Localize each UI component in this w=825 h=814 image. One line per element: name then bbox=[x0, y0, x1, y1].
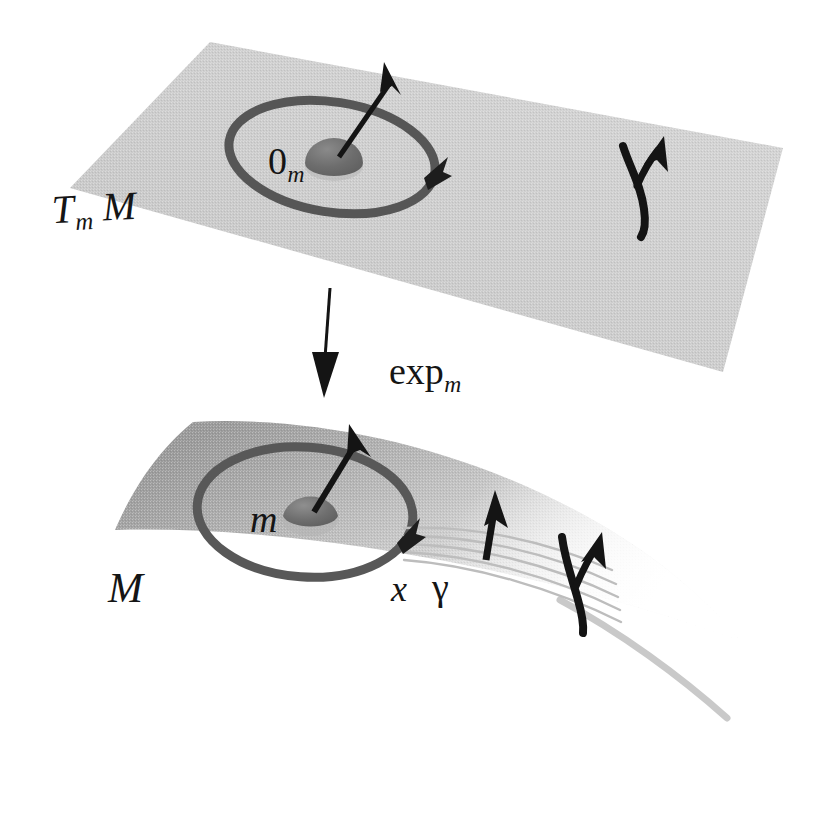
origin-label-zero: 0 bbox=[268, 140, 287, 182]
manifold-group bbox=[115, 421, 740, 718]
tangent-plane-texture bbox=[70, 42, 783, 372]
manifold-label: M bbox=[108, 567, 143, 609]
origin-label-subscript: m bbox=[287, 161, 304, 187]
tangent-space-label-T: T bbox=[51, 186, 76, 232]
exp-label-text: exp bbox=[389, 350, 444, 392]
origin-label: 0m bbox=[268, 142, 304, 186]
tangent-space-label: Tm M bbox=[51, 186, 137, 236]
tangent-plane-group bbox=[70, 42, 783, 372]
exp-label-subscript: m bbox=[444, 371, 461, 397]
manifold-point-label-text: m bbox=[250, 498, 277, 540]
exp-arrow-head bbox=[312, 352, 339, 398]
tangent-space-label-subscript: m bbox=[75, 207, 94, 235]
exp-arrow-shaft bbox=[325, 288, 330, 358]
exponential-map-label: expm bbox=[389, 352, 461, 396]
exponential-map-arrow bbox=[312, 288, 339, 398]
figure-root: Tm M 0m expm m M x γ bbox=[0, 0, 825, 814]
geodesic-label-text: γ bbox=[432, 566, 449, 608]
tangent-space-label-M: M bbox=[101, 183, 137, 230]
image-point-label-text: x bbox=[391, 569, 407, 609]
diagram-canvas bbox=[0, 0, 825, 814]
manifold-point-label: m bbox=[250, 500, 277, 538]
image-point-label: x bbox=[391, 571, 407, 607]
geodesic-label: γ bbox=[432, 568, 449, 606]
manifold-label-text: M bbox=[108, 565, 143, 611]
